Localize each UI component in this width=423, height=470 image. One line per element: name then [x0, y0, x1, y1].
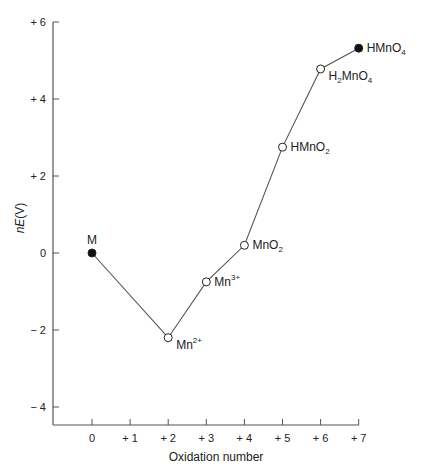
x-tick-label: 0	[89, 432, 95, 444]
x-tick-label: + 3	[198, 432, 214, 444]
open-marker	[240, 241, 248, 249]
point-label-h2mno4: H2MnO4	[329, 69, 373, 85]
x-tick-label: + 7	[351, 432, 367, 444]
point-label-mn2plus: Mn2+	[176, 336, 202, 352]
point-label-mno2: MnO2	[252, 238, 283, 254]
x-tick-label: + 2	[160, 432, 176, 444]
series-polyline	[92, 48, 359, 338]
y-tick-label: + 4	[30, 93, 46, 105]
x-tick-label: + 4	[237, 432, 253, 444]
y-axis-ticks: + 6+ 4+ 20− 2− 4	[30, 16, 59, 413]
x-tick-label: + 1	[122, 432, 138, 444]
point-label-mn3plus: Mn3+	[214, 273, 240, 289]
filled-marker	[355, 44, 363, 52]
open-marker	[164, 334, 172, 342]
x-tick-label: + 6	[313, 432, 329, 444]
data-line	[92, 48, 359, 338]
y-tick-label: + 2	[30, 170, 46, 182]
data-markers	[88, 44, 363, 342]
point-label-hmno4: HMnO4	[367, 41, 407, 57]
point-labels: MMn2+Mn3+MnO2HMnO2H2MnO4HMnO4	[87, 41, 406, 352]
point-label-m: M	[87, 233, 97, 247]
filled-marker	[88, 249, 96, 257]
y-tick-label: + 6	[30, 16, 46, 28]
x-tick-label: + 5	[275, 432, 291, 444]
y-tick-label: − 4	[30, 401, 46, 413]
y-tick-label: − 2	[30, 324, 46, 336]
x-axis-ticks: 0+ 1+ 2+ 3+ 4+ 5+ 6+ 7	[89, 419, 367, 444]
open-marker	[202, 278, 210, 286]
y-tick-label: 0	[40, 247, 46, 259]
frost-diagram-chart: + 6+ 4+ 20− 2− 4 0+ 1+ 2+ 3+ 4+ 5+ 6+ 7 …	[0, 0, 423, 470]
x-axis-title: Oxidation number	[169, 450, 264, 464]
open-marker	[317, 65, 325, 73]
open-marker	[279, 143, 287, 151]
axes	[53, 22, 359, 425]
y-axis-title: nE(V)	[13, 203, 27, 234]
point-label-hmno2: HMnO2	[291, 140, 331, 156]
